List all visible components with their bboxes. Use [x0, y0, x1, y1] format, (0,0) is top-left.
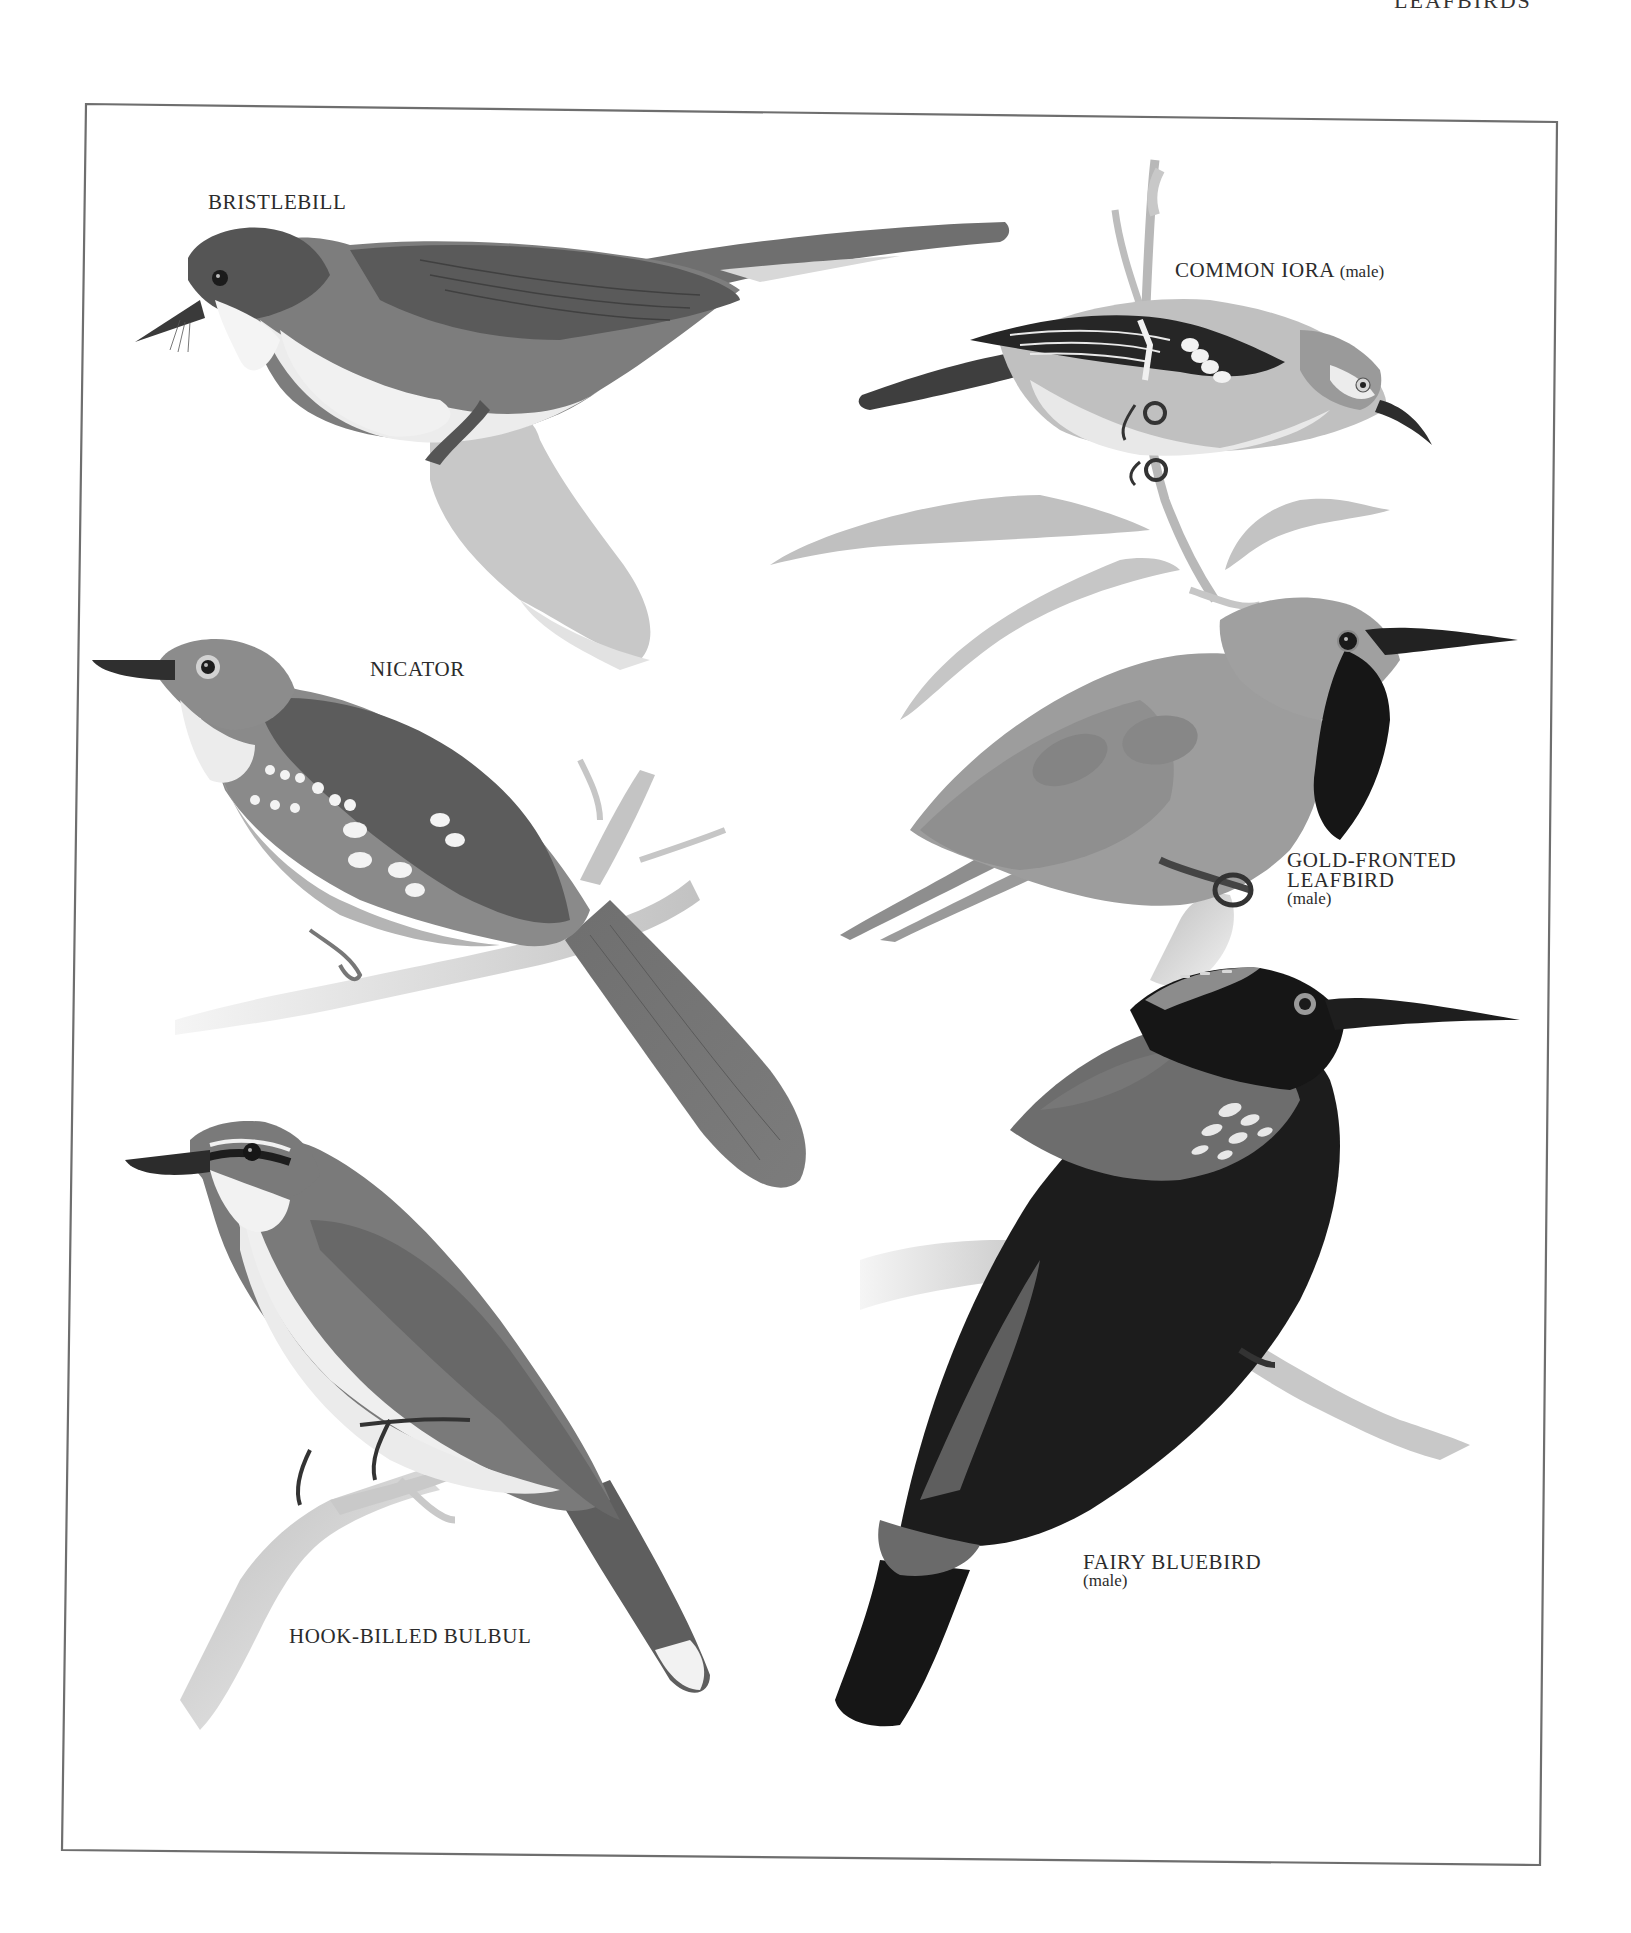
bristlebill-illustration [135, 222, 1009, 670]
gold-fronted-leafbird-illustration [840, 597, 1518, 986]
bristlebill-name: BRISTLEBILL [208, 190, 346, 214]
common-iora-qualifier: (male) [1340, 262, 1384, 281]
nicator-label: NICATOR [370, 659, 465, 680]
gold-fronted-leafbird-qualifier: (male) [1287, 890, 1456, 908]
hook-billed-bulbul-label: HOOK-BILLED BULBUL [289, 1626, 531, 1647]
bristlebill-label: BRISTLEBILL [208, 192, 346, 213]
fairy-bluebird-label: FAIRY BLUEBIRD (male) [1083, 1552, 1261, 1590]
gold-fronted-leafbird-name-line1: GOLD-FRONTED [1287, 850, 1456, 870]
fairy-bluebird-name: FAIRY BLUEBIRD [1083, 1552, 1261, 1572]
common-iora-name: COMMON IORA [1175, 258, 1334, 282]
plate-illustration [0, 0, 1631, 1933]
common-iora-label: COMMON IORA (male) [1175, 260, 1384, 281]
nicator-illustration [92, 639, 806, 1188]
gold-fronted-leafbird-name-line2: LEAFBIRD [1287, 870, 1456, 890]
nicator-name: NICATOR [370, 657, 465, 681]
fairy-bluebird-qualifier: (male) [1083, 1572, 1261, 1590]
hook-billed-bulbul-name: HOOK-BILLED BULBUL [289, 1624, 531, 1648]
fairy-bluebird-illustration [835, 968, 1520, 1727]
gold-fronted-leafbird-label: GOLD-FRONTED LEAFBIRD (male) [1287, 850, 1456, 908]
book-page: LEAFBIRDS [0, 0, 1631, 1933]
